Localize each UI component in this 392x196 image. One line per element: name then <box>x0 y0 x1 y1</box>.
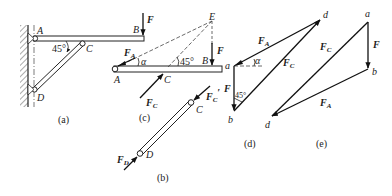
angle-arc-45 <box>66 41 68 52</box>
point-b-label: B <box>133 24 139 35</box>
force-fc-arrow <box>140 74 163 98</box>
alpha-label: α <box>141 56 147 67</box>
vector-fa-d-arrowhead <box>234 60 243 66</box>
figure-c: FA α 45° F FC E A B C (c) <box>112 11 224 124</box>
force-fc-prime-label: FC′ <box>205 87 220 104</box>
vector-fc-d <box>234 20 320 111</box>
point-a-e-label: a <box>365 8 370 19</box>
point-c-label: C <box>86 43 93 54</box>
vector-fa-d <box>234 20 320 66</box>
point-a-d-label: a <box>225 60 230 71</box>
figure-b: FC′ C FD D (b) <box>116 86 220 184</box>
angle-45-label-d: 45° <box>235 91 246 100</box>
angle-label: 45° <box>52 43 66 54</box>
point-a-label: A <box>36 25 44 36</box>
point-c-b-label: C <box>196 104 203 115</box>
vector-fa-e <box>272 69 368 116</box>
point-d-b-label: D <box>145 149 154 160</box>
angle-45-label: 45° <box>180 56 194 67</box>
vector-fa-label-e: FA <box>319 97 332 110</box>
wall-hatch <box>20 25 28 107</box>
force-fd-label: FD <box>116 154 129 167</box>
pin-c <box>80 41 85 46</box>
caption-b: (b) <box>157 172 169 184</box>
point-b-fbd-label: B <box>202 55 208 66</box>
point-d-e-label: d <box>265 119 271 130</box>
force-fa-arrowhead <box>118 61 126 66</box>
caption-c: (c) <box>139 112 150 124</box>
pin-c-fbd <box>188 100 194 106</box>
support-d <box>28 84 34 95</box>
point-b-e-label: b <box>372 66 377 77</box>
vector-f-label-e: F <box>372 39 380 50</box>
caption-e: (e) <box>316 138 327 150</box>
pin-d-fbd <box>137 151 143 157</box>
figure-e: F FA FC a b d (e) <box>265 8 380 150</box>
support-a <box>28 33 34 44</box>
caption-d: (d) <box>244 138 256 150</box>
point-c-fbd-label: C <box>164 74 171 85</box>
force-fc-label: FC <box>145 97 158 110</box>
vector-fc-label-d: FC <box>282 57 295 70</box>
force-fa-label: FA <box>123 47 136 60</box>
strut-cd-fbd <box>138 101 193 155</box>
figure-d: α 45° FA F FC a b d (d) <box>223 9 329 150</box>
force-f-fbd-label: F <box>216 45 224 56</box>
point-e-label: E <box>208 11 215 22</box>
force-f-label: F <box>146 14 154 25</box>
statics-diagram: 45° F A B C D (a) FA α 45° F FC E A B <box>0 0 392 196</box>
point-d-label: D <box>36 92 45 103</box>
point-a-fbd-label: A <box>113 74 121 85</box>
alpha-arc <box>138 58 139 66</box>
pin-a-fbd <box>112 66 118 72</box>
point-b-d-label: b <box>228 114 233 125</box>
caption-a: (a) <box>58 114 69 126</box>
beam-ab <box>34 36 144 41</box>
vector-fa-label-d: FA <box>257 35 270 48</box>
vector-fc-label-e: FC <box>319 41 332 54</box>
vector-f-label-d: F <box>223 83 231 94</box>
angle-arc-45-fbd <box>177 57 179 66</box>
alpha-label-d: α <box>255 55 261 66</box>
point-d-d-label: d <box>323 9 329 20</box>
